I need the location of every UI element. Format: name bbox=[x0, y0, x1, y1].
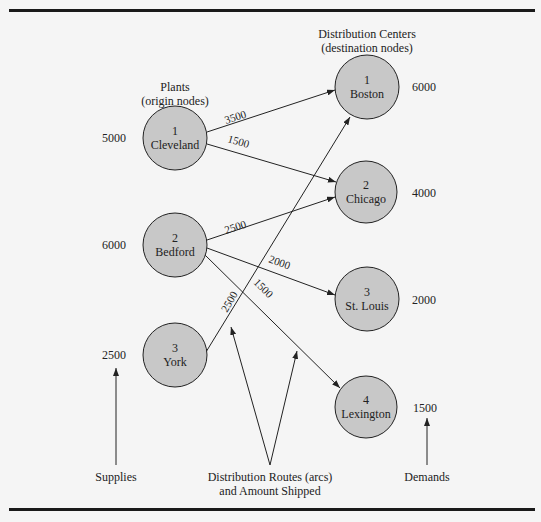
node-bedford: 2 Bedford bbox=[143, 213, 207, 277]
amount-bedford-lexington: 1500 bbox=[252, 276, 276, 300]
node-lexington-name: Lexington bbox=[341, 407, 390, 421]
node-chicago-id: 2 bbox=[363, 178, 369, 192]
node-chicago: 2 Chicago bbox=[335, 161, 397, 223]
node-cleveland: 1 Cleveland bbox=[143, 106, 207, 170]
amount-cleveland-chicago: 1500 bbox=[226, 132, 251, 150]
node-lexington-id: 4 bbox=[363, 393, 369, 407]
arc-cleveland-chicago bbox=[207, 144, 336, 182]
node-york-name: York bbox=[163, 355, 186, 369]
node-cleveland-id: 1 bbox=[172, 124, 178, 138]
node-boston-id: 1 bbox=[364, 73, 370, 87]
amount-bedford-stlouis: 2000 bbox=[267, 253, 292, 272]
node-york-id: 3 bbox=[172, 341, 178, 355]
node-york: 3 York bbox=[143, 323, 207, 387]
node-stlouis: 3 St. Louis bbox=[335, 267, 399, 331]
network-diagram: 3500 1500 2500 2000 1500 2500 1 Clevelan… bbox=[0, 0, 541, 522]
node-bedford-id: 2 bbox=[172, 231, 178, 245]
node-chicago-name: Chicago bbox=[346, 192, 386, 206]
amount-bedford-chicago: 2500 bbox=[223, 218, 248, 236]
routes-pointer-left bbox=[231, 327, 270, 465]
node-lexington: 4 Lexington bbox=[335, 376, 397, 438]
node-cleveland-name: Cleveland bbox=[151, 138, 200, 152]
node-boston-name: Boston bbox=[350, 87, 384, 101]
node-stlouis-name: St. Louis bbox=[345, 299, 389, 313]
node-bedford-name: Bedford bbox=[155, 245, 194, 259]
routes-pointer-right bbox=[270, 351, 297, 465]
node-boston: 1 Boston bbox=[335, 55, 399, 119]
node-stlouis-id: 3 bbox=[364, 285, 370, 299]
